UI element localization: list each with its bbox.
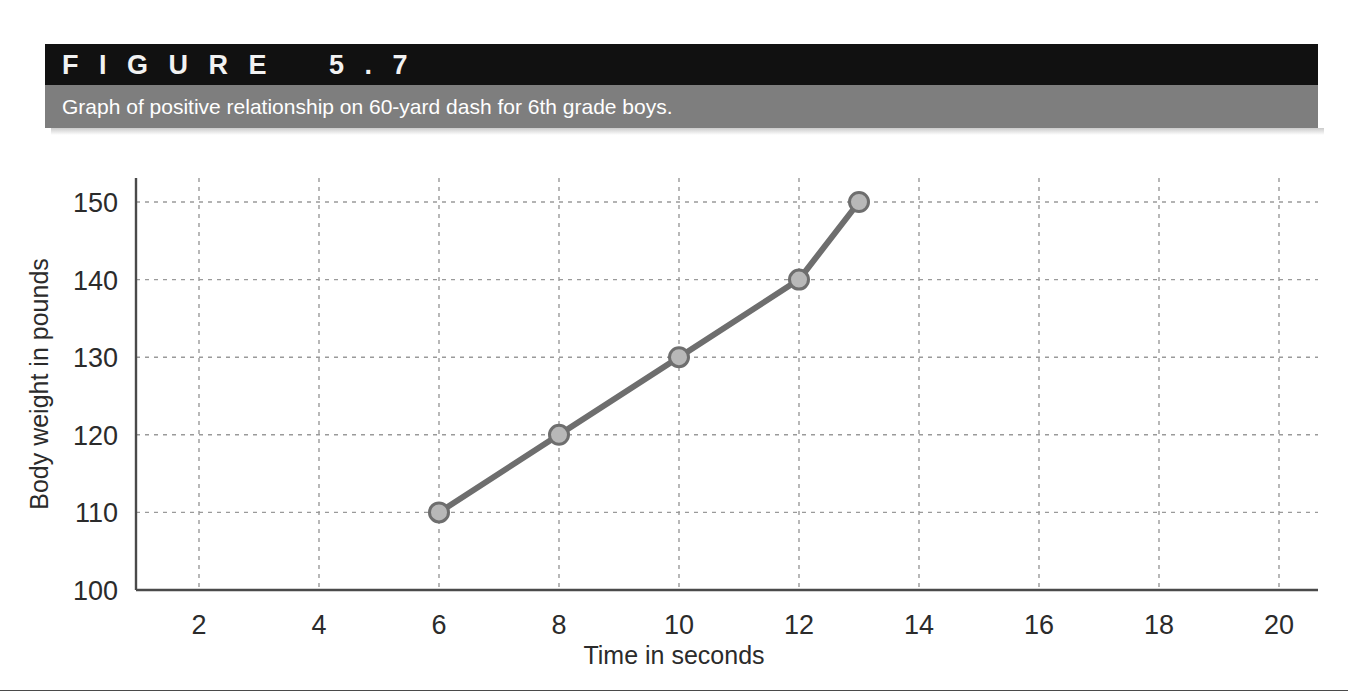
data-point-8-120 — [550, 425, 569, 444]
x-tick-label-12: 12 — [784, 610, 814, 640]
x-tick-label-14: 14 — [904, 610, 934, 640]
data-point-10-130 — [670, 348, 689, 367]
x-tick-label-20: 20 — [1264, 610, 1294, 640]
horizontal-gridlines — [136, 202, 1318, 512]
x-tick-label-18: 18 — [1144, 610, 1174, 640]
chart-container: 2468101214161820 100110120130140150 Time… — [0, 128, 1348, 688]
x-axis-title: Time in seconds — [583, 641, 764, 669]
data-point-12-140 — [790, 270, 809, 289]
figure-number-label: F I G U R E 5 . 7 — [62, 49, 414, 81]
y-tick-label-140: 140 — [73, 266, 118, 296]
data-point-13-150 — [850, 193, 869, 212]
data-point-6-110 — [430, 503, 449, 522]
x-tick-label-2: 2 — [191, 610, 206, 640]
y-tick-label-120: 120 — [73, 421, 118, 451]
x-tick-label-4: 4 — [311, 610, 326, 640]
y-tick-label-110: 110 — [75, 498, 118, 528]
y-tick-label-150: 150 — [73, 188, 118, 218]
y-axis-tick-labels: 100110120130140150 — [73, 188, 118, 606]
y-axis-title: Body weight in pounds — [25, 258, 53, 510]
chart-axes — [136, 178, 1318, 590]
line-chart: 2468101214161820 100110120130140150 Time… — [0, 128, 1348, 688]
figure-header-banner: F I G U R E 5 . 7 Graph of positive rela… — [45, 44, 1318, 128]
x-axis-tick-labels: 2468101214161820 — [191, 610, 1294, 640]
x-tick-label-6: 6 — [431, 610, 446, 640]
x-tick-label-16: 16 — [1024, 610, 1054, 640]
y-tick-label-130: 130 — [73, 343, 118, 373]
y-tick-label-100: 100 — [73, 576, 118, 606]
figure-caption-label: Graph of positive relationship on 60-yar… — [62, 93, 673, 121]
x-tick-label-10: 10 — [664, 610, 694, 640]
vertical-gridlines — [199, 178, 1279, 590]
page-bottom-rule — [0, 690, 1348, 691]
x-tick-label-8: 8 — [551, 610, 566, 640]
